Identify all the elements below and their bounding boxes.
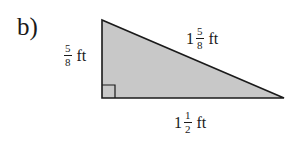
vertical-leg-label: 5 8 ft	[63, 43, 86, 68]
horizontal-leg-label: 1 1 2 ft	[174, 110, 206, 135]
hypotenuse-label: 1 5 8 ft	[186, 26, 218, 51]
hypotenuse-fraction: 5 8	[196, 26, 204, 51]
horizontal-leg-fraction: 1 2	[184, 110, 192, 135]
triangle-figure	[0, 0, 302, 143]
vertical-leg-fraction: 5 8	[64, 43, 72, 68]
